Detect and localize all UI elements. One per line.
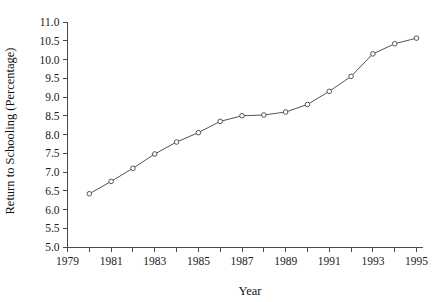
data-point-marker bbox=[87, 191, 92, 196]
series-markers bbox=[87, 36, 419, 196]
x-tick-label: 1991 bbox=[318, 255, 341, 267]
x-tick-label: 1993 bbox=[361, 255, 384, 267]
series-line-return-to-schooling bbox=[89, 38, 416, 194]
data-point-marker bbox=[327, 89, 332, 94]
data-point-marker bbox=[196, 130, 201, 135]
x-tick-label: 1981 bbox=[100, 255, 123, 267]
y-tick-label: 5.0 bbox=[45, 241, 60, 253]
x-tick-label: 1979 bbox=[56, 255, 79, 267]
x-tick-label: 1985 bbox=[187, 255, 210, 267]
x-axis-tick-labels: 197919811983198519871989199119931995 bbox=[56, 255, 428, 267]
y-tick-label: 10.5 bbox=[39, 35, 59, 47]
x-tick-label: 1987 bbox=[231, 255, 254, 267]
y-tick-label: 10.0 bbox=[39, 54, 59, 66]
x-axis-ticks bbox=[68, 247, 417, 252]
y-axis-tick-labels: 5.05.56.06.57.07.58.08.59.09.510.010.511… bbox=[39, 16, 59, 253]
x-tick-label: 1983 bbox=[143, 255, 166, 267]
y-tick-label: 6.5 bbox=[45, 185, 60, 197]
y-axis-ticks bbox=[63, 22, 68, 247]
y-tick-label: 8.5 bbox=[45, 110, 60, 122]
data-point-marker bbox=[218, 119, 223, 124]
x-axis-title: Year bbox=[238, 284, 262, 298]
data-point-marker bbox=[305, 102, 310, 107]
data-point-marker bbox=[392, 41, 397, 46]
data-point-marker bbox=[131, 166, 136, 171]
data-point-marker bbox=[349, 74, 354, 79]
y-tick-label: 11.0 bbox=[40, 16, 60, 28]
y-axis-title: Return to Schooling (Percentage) bbox=[3, 48, 17, 215]
x-tick-label: 1989 bbox=[274, 255, 297, 267]
x-tick-label: 1995 bbox=[405, 255, 428, 267]
data-point-marker bbox=[283, 110, 288, 115]
y-tick-label: 9.0 bbox=[45, 91, 60, 103]
data-point-marker bbox=[414, 36, 419, 41]
y-tick-label: 6.0 bbox=[45, 204, 60, 216]
data-point-marker bbox=[174, 140, 179, 145]
y-tick-label: 5.5 bbox=[45, 222, 60, 234]
data-point-marker bbox=[371, 52, 376, 57]
chart-page: 5.05.56.06.57.07.58.08.59.09.510.010.511… bbox=[0, 0, 439, 302]
y-tick-label: 8.0 bbox=[45, 129, 60, 141]
data-point-marker bbox=[240, 113, 245, 118]
data-point-marker bbox=[109, 179, 114, 184]
data-point-marker bbox=[262, 113, 267, 118]
y-tick-label: 7.0 bbox=[45, 166, 60, 178]
y-tick-label: 7.5 bbox=[45, 147, 60, 159]
line-chart: 5.05.56.06.57.07.58.08.59.09.510.010.511… bbox=[0, 0, 439, 302]
y-tick-label: 9.5 bbox=[45, 72, 60, 84]
data-point-marker bbox=[152, 152, 157, 157]
